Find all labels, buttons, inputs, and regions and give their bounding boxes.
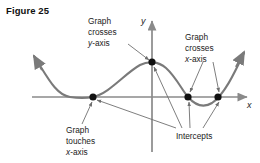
point-crosses-y-axis [148, 58, 155, 65]
curve-left-arrow [34, 56, 42, 70]
x-axis-label: x [246, 100, 252, 110]
annotation-crosses-x-line1: Graph [185, 32, 208, 42]
annotation-touches-x-line2: touches [66, 136, 95, 146]
annotation-crosses-y-suffix: -axis [92, 38, 110, 48]
leader-crosses-y [128, 44, 149, 60]
leader-touches-x [82, 102, 92, 124]
figure-graphic: x y Graph cro [0, 0, 260, 163]
annotation-crosses-y-line2: crosses [88, 27, 117, 37]
annotation-crosses-y-axis: Graph crosses y-axis [87, 16, 117, 48]
annotation-crosses-x-suffix: -axis [189, 54, 207, 64]
annotation-touches-x-line1: Graph [66, 125, 89, 135]
figure-container: Figure 25 x y [0, 0, 260, 163]
point-touches-x-axis [89, 93, 96, 100]
leader-intercepts-a [97, 100, 176, 128]
annotation-crosses-x-line3: x-axis [184, 54, 207, 64]
annotation-crosses-x-axis: Graph crosses x-axis [184, 32, 214, 64]
curve-right-arrow [236, 52, 244, 67]
annotation-crosses-y-line3: y-axis [87, 38, 110, 48]
y-axis-label: y [140, 16, 146, 26]
axes-group: x y [32, 16, 252, 152]
point-crosses-x-axis-right [214, 93, 221, 100]
annotation-touches-x-line3: x-axis [65, 147, 88, 157]
annotation-crosses-x-line2: crosses [185, 43, 214, 53]
annotation-touches-x-axis: Graph touches x-axis [65, 125, 95, 157]
leader-crosses-x-left [190, 62, 203, 92]
annotation-crosses-y-line1: Graph [88, 16, 111, 26]
point-crosses-x-axis-left [184, 93, 191, 100]
annotation-touches-x-suffix: -axis [70, 147, 88, 157]
annotation-intercepts: Intercepts [176, 131, 212, 141]
leader-crosses-x-right [213, 62, 219, 92]
leader-intercepts-c [189, 102, 190, 128]
